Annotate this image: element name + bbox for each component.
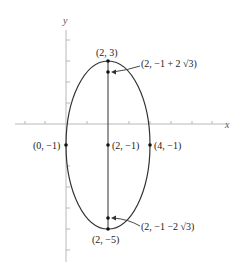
point-left-covertex: [64, 143, 68, 147]
lower-focus-leader: [111, 216, 140, 227]
point-upper-focus: [106, 70, 110, 74]
point-center: [106, 143, 110, 147]
point-top-vertex: [106, 59, 110, 63]
diagram-canvas: [0, 0, 247, 272]
label-upper-focus: (2, −1 + 2 √3): [141, 59, 197, 69]
point-lower-focus: [106, 216, 110, 220]
point-bottom-vertex: [106, 227, 110, 231]
label-right-covertex: (4, −1): [154, 141, 181, 151]
x-axis-label: x: [225, 120, 229, 130]
point-right-covertex: [148, 143, 152, 147]
label-center: (2, −1): [112, 141, 139, 151]
upper-focus-leader: [111, 66, 140, 75]
label-left-covertex: (0, −1): [33, 141, 60, 151]
label-lower-focus: (2, −1 −2 √3): [141, 222, 194, 232]
y-axis-label: y: [63, 16, 67, 26]
label-top-vertex: (2, 3): [96, 48, 118, 58]
label-bottom-vertex: (2, −5): [92, 235, 119, 245]
